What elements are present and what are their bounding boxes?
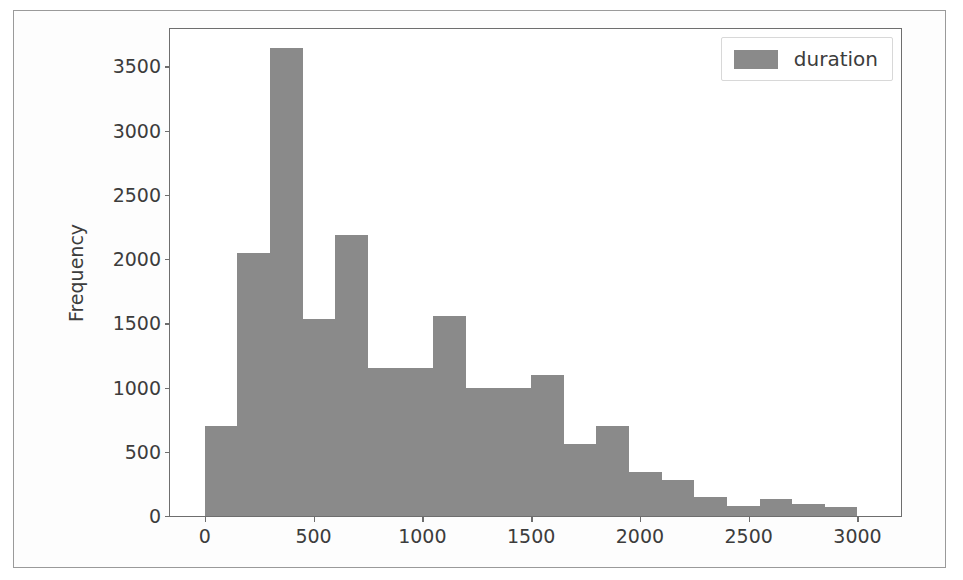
histogram-bar — [237, 253, 270, 516]
figure-caption — [16, 570, 946, 580]
plot-area: 0500100015002000250030003500 05001000150… — [169, 28, 902, 517]
histogram-bar — [466, 388, 499, 516]
histogram-bar — [205, 426, 238, 516]
histogram-bar — [499, 388, 532, 516]
x-tick-label: 1000 — [398, 527, 446, 546]
histogram-bar — [825, 507, 858, 516]
x-tick-mark — [749, 516, 750, 522]
y-tick-mark — [165, 66, 170, 67]
y-tick-mark — [165, 195, 170, 196]
histogram-bar — [694, 497, 727, 516]
y-tick-label: 2000 — [113, 250, 161, 269]
legend-label-duration: duration — [794, 47, 878, 71]
histogram-bar — [596, 426, 629, 516]
x-tick-mark — [857, 516, 858, 522]
histogram-bar — [303, 319, 336, 516]
y-tick-mark — [165, 388, 170, 389]
x-tick-mark — [422, 516, 423, 522]
figure-outer-frame: Frequency 0500100015002000250030003500 0… — [13, 10, 946, 568]
x-tick-mark — [640, 516, 641, 522]
y-tick-mark — [165, 259, 170, 260]
x-tick-mark — [205, 516, 206, 522]
y-tick-label: 0 — [149, 507, 161, 526]
x-tick-label: 0 — [199, 527, 211, 546]
legend: duration — [721, 37, 893, 81]
y-tick-mark — [165, 323, 170, 324]
y-tick-label: 1000 — [113, 378, 161, 397]
y-tick-mark — [165, 131, 170, 132]
x-tick-label: 2000 — [616, 527, 664, 546]
bars-layer — [170, 29, 901, 516]
histogram-bar — [727, 506, 760, 516]
y-tick-label: 1500 — [113, 314, 161, 333]
histogram-bar — [401, 368, 434, 516]
histogram-bar — [662, 480, 695, 516]
legend-swatch-duration — [734, 50, 778, 69]
y-tick-label: 3000 — [113, 121, 161, 140]
histogram-bar — [531, 375, 564, 516]
histogram-bar — [335, 235, 368, 516]
histogram-bar — [760, 499, 793, 516]
x-tick-mark — [531, 516, 532, 522]
y-tick-mark — [165, 452, 170, 453]
x-tick-label: 1500 — [507, 527, 555, 546]
histogram-figure: Frequency 0500100015002000250030003500 0… — [14, 11, 947, 569]
histogram-bar — [629, 472, 662, 516]
x-tick-label: 3000 — [833, 527, 881, 546]
y-tick-label: 500 — [125, 442, 161, 461]
histogram-bar — [368, 368, 401, 516]
histogram-bar — [433, 316, 466, 516]
histogram-bar — [564, 444, 597, 516]
y-tick-mark — [165, 516, 170, 517]
y-tick-label: 3500 — [113, 57, 161, 76]
histogram-bar — [270, 48, 303, 516]
x-tick-label: 2500 — [725, 527, 773, 546]
x-tick-mark — [314, 516, 315, 522]
histogram-bar — [792, 504, 825, 516]
y-tick-label: 2500 — [113, 185, 161, 204]
x-tick-label: 500 — [295, 527, 331, 546]
y-axis-title: Frequency — [65, 224, 87, 322]
